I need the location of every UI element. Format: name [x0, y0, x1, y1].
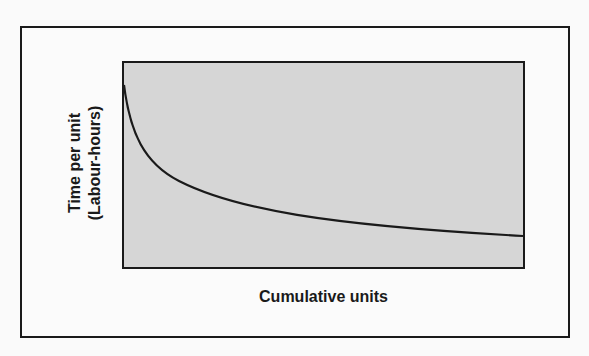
plot-area — [122, 61, 525, 269]
y-axis-label-line2: (Labour-hours) — [85, 63, 105, 263]
x-axis-label: Cumulative units — [122, 288, 525, 306]
y-axis-label-line1: Time per unit — [65, 63, 85, 263]
y-axis-label: Time per unit (Labour-hours) — [65, 63, 105, 263]
learning-curve — [124, 63, 523, 267]
